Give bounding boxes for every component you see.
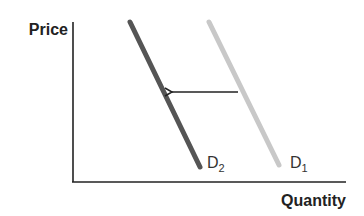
demand-shift-diagram: Price Quantity D2 D1 [0, 0, 364, 216]
d2-label: D2 [207, 154, 225, 174]
demand-curve-d2 [130, 22, 200, 167]
y-axis-label: Price [29, 21, 68, 38]
d1-label: D1 [290, 154, 308, 174]
x-axis-label: Quantity [281, 192, 346, 209]
demand-curve-d1 [209, 22, 279, 165]
